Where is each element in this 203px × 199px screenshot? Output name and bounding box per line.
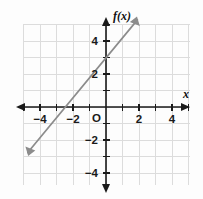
y-tick-label: 4 (92, 35, 99, 47)
y-tick-label: 2 (92, 68, 98, 80)
y-axis-label: f(x) (113, 9, 131, 23)
graph-figure: f(x) x O −4−224 42−2−4 (0, 0, 203, 199)
coordinate-plane-svg: f(x) x O −4−224 42−2−4 (0, 0, 203, 199)
x-tick-label: 2 (136, 113, 142, 125)
x-axis-label: x (182, 87, 189, 101)
y-tick-label: −2 (85, 134, 98, 146)
origin-label: O (92, 112, 101, 124)
x-tick-label: −2 (66, 113, 79, 125)
y-tick-label: −4 (85, 167, 99, 179)
figure-background (0, 0, 203, 199)
x-tick-label: 4 (169, 113, 176, 125)
x-tick-label: −4 (33, 113, 47, 125)
